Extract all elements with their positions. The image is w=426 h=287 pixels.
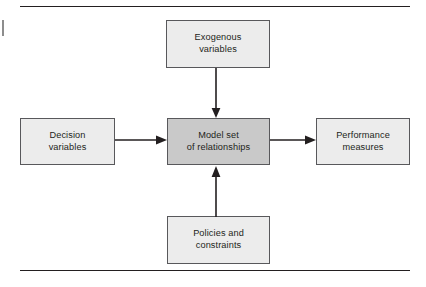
node-policies-and-constraints-line2: constraints: [196, 240, 242, 250]
node-performance-measures: Performance measures: [316, 118, 410, 165]
node-exogenous-variables-line2: variables: [199, 44, 237, 54]
node-exogenous-variables: Exogenous variables: [166, 20, 270, 68]
node-model-set-of-relationships-line2: of relationships: [187, 142, 250, 152]
top-divider-rule: [20, 6, 410, 7]
node-policies-and-constraints: Policies and constraints: [167, 216, 270, 264]
arrow-decision-to-model: [115, 134, 168, 146]
node-model-set-of-relationships: Model set of relationships: [167, 118, 270, 165]
node-decision-variables-line1: Decision: [49, 130, 85, 140]
bottom-divider-rule: [20, 270, 410, 271]
arrow-model-to-performance: [270, 134, 317, 146]
node-exogenous-variables-line1: Exogenous: [195, 32, 242, 42]
figure-canvas: Exogenous variables Decision variables M…: [0, 0, 426, 287]
node-policies-and-constraints-line1: Policies and: [193, 228, 244, 238]
node-performance-measures-line2: measures: [342, 142, 383, 152]
node-performance-measures-line1: Performance: [336, 130, 390, 140]
node-decision-variables-line2: variables: [49, 142, 87, 152]
arrow-exogenous-to-model: [210, 68, 222, 120]
node-decision-variables: Decision variables: [20, 118, 115, 165]
left-edge-tick-mark: [2, 20, 4, 36]
arrow-policies-to-model: [210, 165, 222, 217]
node-model-set-of-relationships-line1: Model set: [198, 130, 239, 140]
